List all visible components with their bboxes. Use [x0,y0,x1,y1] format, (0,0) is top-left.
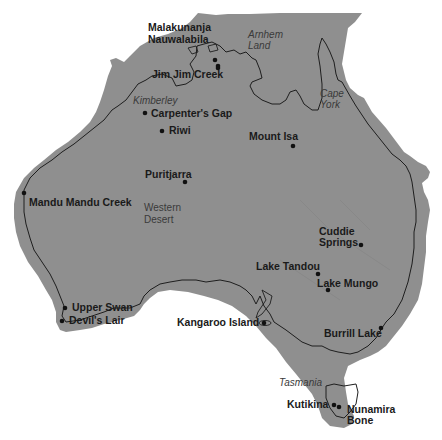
site-dot-nunamira [337,405,342,410]
region-label-arnhem-land: Arnhem [247,29,283,40]
site-label-mount-isa: Mount Isa [249,130,298,142]
site-label-devils-lair: Devil's Lair [69,314,125,326]
region-label-cape-york: Cape [320,88,344,99]
desert-label-line: Desert [144,214,174,225]
site-dot-mount-isa [291,144,296,149]
site-label-kangaroo-island: Kangaroo Island [177,316,259,328]
site-label-carpenters-gap: Carpenter's Gap [151,107,232,119]
site-label-upper-swan: Upper Swan [72,301,133,313]
site-label-jim-jim-creek: Jim Jim Creek [152,68,223,80]
site-dot-carpenters-gap [143,111,148,116]
region-label-arnhem-land: Land [248,40,271,51]
site-label-malakunanja: Malakunanja [148,21,211,33]
site-dot-malakunanja [213,58,218,63]
site-dot-upper-swan [63,306,68,311]
australia-map: ArnhemLandKimberleyCapeYorkTasmania West… [0,0,442,440]
site-label-lake-tandou: Lake Tandou [256,260,320,272]
site-dot-mandu-mandu-creek [22,191,27,196]
site-dot-lake-tandou [316,272,321,277]
site-dot-kutikina [332,403,337,408]
site-dot-cuddie-springs-1 [359,243,364,248]
site-label-nauwalabila: Nauwalabila [148,33,209,45]
site-label-puritjarra: Puritjarra [145,168,192,180]
site-dot-devils-lair [60,319,65,324]
site-label-burrill-lake: Burrill Lake [324,327,382,339]
region-label-tasmania: Tasmania [279,377,322,388]
desert-label-line: Western [144,202,181,213]
site-dot-riwi [160,129,165,134]
site-dot-puritjarra [183,180,188,185]
region-label-cape-york: York [320,99,341,110]
site-label-bone-cave: Bone [347,414,373,426]
site-label-lake-mungo: Lake Mungo [317,277,378,289]
map-svg: ArnhemLandKimberleyCapeYorkTasmania West… [0,0,442,440]
site-label-mandu-mandu-creek: Mandu Mandu Creek [29,196,132,208]
site-dot-kangaroo-island [262,321,267,326]
region-label-kimberley: Kimberley [133,95,178,106]
site-label-cuddie-springs-2: Springs [319,236,358,248]
site-label-kutikina: Kutikina [287,398,329,410]
site-label-riwi: Riwi [169,124,191,136]
